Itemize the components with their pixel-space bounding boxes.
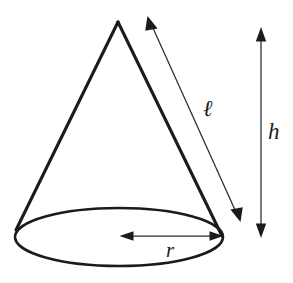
radius-dimension: r — [120, 231, 224, 262]
slant-height-arrowhead-bottom — [230, 207, 242, 222]
slant-height-arrowhead-top — [145, 16, 157, 31]
cone-base-ellipse — [15, 208, 223, 266]
cone-figure-svg: ℓ h r — [0, 0, 293, 283]
height-label: h — [268, 119, 280, 144]
radius-arrowhead-left — [120, 231, 134, 241]
radius-label: r — [166, 238, 175, 262]
cone-left-edge — [16, 22, 118, 230]
cone-diagram: ℓ h r — [0, 0, 293, 283]
height-arrowhead-bottom — [256, 224, 266, 239]
slant-height-label: ℓ — [203, 96, 213, 121]
height-dimension: h — [256, 27, 280, 238]
height-arrowhead-top — [256, 27, 266, 42]
cone-right-edge — [118, 22, 222, 236]
slant-height-dimension: ℓ — [145, 16, 243, 222]
